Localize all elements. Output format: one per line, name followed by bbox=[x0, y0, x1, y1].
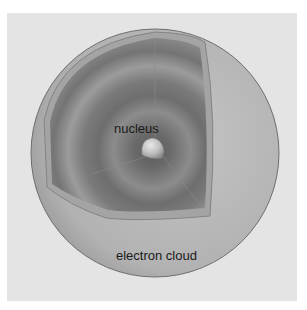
atom-diagram bbox=[0, 0, 307, 310]
nucleus-label: nucleus bbox=[114, 121, 159, 136]
electron-cloud-label: electron cloud bbox=[116, 248, 197, 263]
